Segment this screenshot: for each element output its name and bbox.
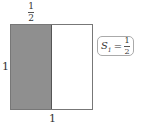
equals-sign: = [114, 41, 122, 52]
top-fraction-numerator: 1 [28, 2, 34, 11]
area-symbol-letter: S [101, 40, 108, 51]
area-fraction: 1 2 [124, 37, 130, 56]
area-fraction-numerator: 1 [124, 37, 129, 45]
area-fraction-denominator: 2 [124, 48, 129, 56]
unit-square [10, 24, 93, 110]
area-symbol-subscript: 1 [108, 46, 112, 53]
area-label-box: S1 = 1 2 [97, 36, 134, 56]
shaded-half-region [11, 25, 52, 109]
top-fraction-denominator: 2 [28, 14, 34, 23]
area-symbol: S1 [101, 40, 112, 53]
top-fraction-label: 1 2 [28, 2, 34, 23]
left-side-label: 1 [2, 60, 9, 73]
bottom-side-label: 1 [49, 112, 56, 125]
